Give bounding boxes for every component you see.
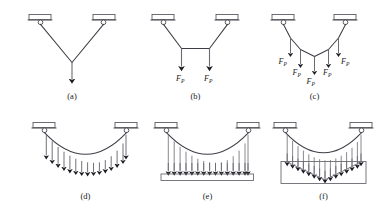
caption-b: (b) xyxy=(191,91,201,101)
support-left-c xyxy=(271,15,296,25)
support-left-a xyxy=(28,15,53,25)
cable-c xyxy=(284,24,346,56)
force-label-c-2: FP xyxy=(292,68,302,78)
cable-b xyxy=(164,24,228,48)
panel-f: (f) xyxy=(273,123,374,202)
support-left-b xyxy=(151,15,176,25)
support-left-e xyxy=(154,123,179,133)
caption-e: (e) xyxy=(203,191,213,201)
support-right-d xyxy=(114,123,139,133)
cable-e xyxy=(167,133,249,155)
support-left-d xyxy=(32,123,57,133)
panel-e: (e) xyxy=(154,123,261,202)
force-label-c-5: FP xyxy=(340,57,350,67)
support-right-b xyxy=(215,15,240,25)
support-right-c xyxy=(333,15,358,25)
caption-a: (a) xyxy=(67,91,77,101)
caption-f: (f) xyxy=(319,191,328,201)
figure-container: (a) FP FP (b) xyxy=(0,0,376,212)
support-left-f xyxy=(273,123,298,133)
panel-a: (a) xyxy=(28,15,117,102)
force-label-b-2: FP xyxy=(203,74,213,84)
force-label-c-1: FP xyxy=(278,57,288,67)
deck-e xyxy=(161,174,254,181)
caption-c: (c) xyxy=(310,91,320,101)
panel-d: (d) xyxy=(32,123,139,202)
force-label-c-3: FP xyxy=(306,77,316,87)
cable-d xyxy=(45,133,127,155)
support-right-a xyxy=(92,15,117,25)
hangers-f xyxy=(287,135,361,179)
force-label-c-4: FP xyxy=(322,68,332,78)
panel-c: FP FP FP FP FP (c) xyxy=(271,15,358,102)
support-right-e xyxy=(236,123,261,133)
support-right-f xyxy=(349,123,374,133)
distributed-load-d xyxy=(46,135,126,173)
cable-f xyxy=(286,133,362,153)
hanger-arrowheads-e xyxy=(168,163,248,172)
panel-b: FP FP (b) xyxy=(151,15,240,102)
caption-d: (d) xyxy=(81,191,91,201)
cable-a xyxy=(41,24,104,62)
force-label-b-1: FP xyxy=(175,74,185,84)
cable-structures-figure: (a) FP FP (b) xyxy=(0,0,376,212)
